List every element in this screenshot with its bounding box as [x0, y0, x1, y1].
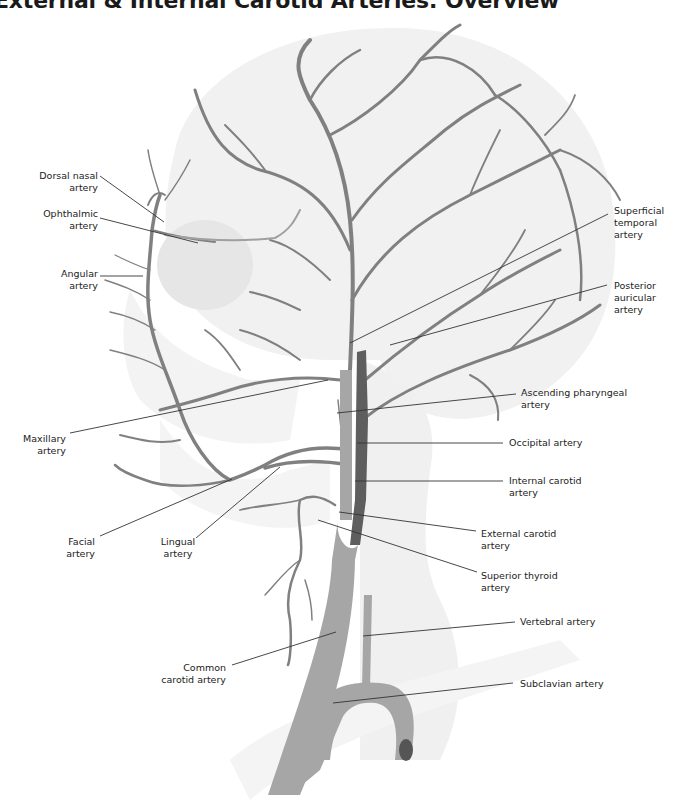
external-carotid-vessel	[340, 370, 352, 520]
label-line: Superior thyroid	[481, 570, 558, 582]
label-line: artery	[481, 540, 556, 552]
label-ascending-pharyngeal-artery: Ascending pharyngeal artery	[521, 387, 627, 411]
label-external-carotid-artery: External carotid artery	[481, 528, 556, 552]
label-line: Ascending pharyngeal	[521, 387, 627, 399]
label-line: Subclavian artery	[520, 678, 604, 690]
label-line: Ophthalmic	[30, 208, 98, 220]
label-line: Superficial	[614, 205, 664, 217]
label-line: artery	[30, 280, 98, 292]
label-internal-carotid-artery: Internal carotid artery	[509, 475, 582, 499]
label-line: Common	[150, 662, 226, 674]
label-occipital-artery: Occipital artery	[509, 437, 582, 449]
label-ophthalmic-artery: Ophthalmic artery	[30, 208, 98, 232]
orbit-shading	[157, 220, 253, 310]
label-line: artery	[614, 229, 664, 241]
label-lingual-artery: Lingual artery	[150, 536, 206, 560]
label-dorsal-nasal-artery: Dorsal nasal artery	[30, 170, 98, 194]
label-line: artery	[614, 304, 656, 316]
label-posterior-auricular-artery: Posterior auricular artery	[614, 280, 656, 316]
label-angular-artery: Angular artery	[30, 268, 98, 292]
label-line: carotid artery	[150, 674, 226, 686]
label-line: Internal carotid	[509, 475, 582, 487]
label-line: artery	[150, 548, 206, 560]
label-superior-thyroid-artery: Superior thyroid artery	[481, 570, 558, 594]
label-line: artery	[481, 582, 558, 594]
label-line: temporal	[614, 217, 664, 229]
leader-dorsal-nasal	[100, 176, 164, 222]
label-line: artery	[0, 445, 66, 457]
label-line: Dorsal nasal	[30, 170, 98, 182]
label-line: auricular	[614, 292, 656, 304]
label-line: artery	[521, 399, 627, 411]
label-line: Maxillary	[0, 433, 66, 445]
label-line: Angular	[30, 268, 98, 280]
label-line: Occipital artery	[509, 437, 582, 449]
label-line: Vertebral artery	[520, 616, 595, 628]
label-line: External carotid	[481, 528, 556, 540]
label-line: Posterior	[614, 280, 656, 292]
label-common-carotid-artery: Common carotid artery	[150, 662, 226, 686]
label-line: artery	[30, 220, 98, 232]
label-vertebral-artery: Vertebral artery	[520, 616, 595, 628]
label-line: artery	[509, 487, 582, 499]
label-line: artery	[30, 182, 98, 194]
label-maxillary-artery: Maxillary artery	[0, 433, 66, 457]
label-line: Lingual	[150, 536, 206, 548]
label-line: Facial	[30, 536, 95, 548]
label-facial-artery: Facial artery	[30, 536, 95, 560]
subclavian-lumen	[399, 739, 413, 761]
label-subclavian-artery: Subclavian artery	[520, 678, 604, 690]
label-superficial-temporal-artery: Superficial temporal artery	[614, 205, 664, 241]
label-line: artery	[30, 548, 95, 560]
